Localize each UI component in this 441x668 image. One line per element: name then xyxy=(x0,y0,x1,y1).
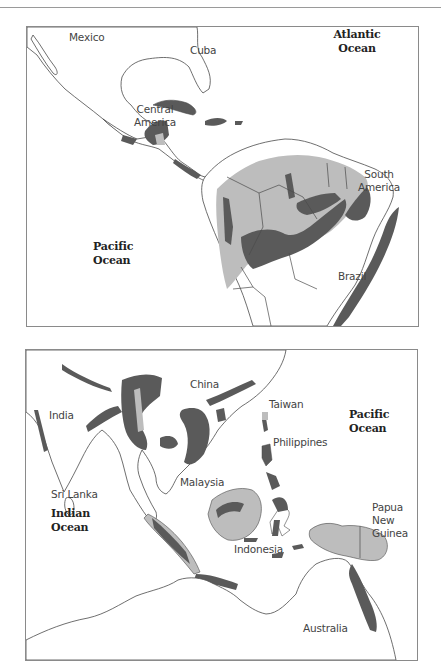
label-philippines: Philippines xyxy=(273,436,327,449)
island-timor xyxy=(292,544,304,550)
label-papua-new-guinea: Papua New Guinea xyxy=(372,501,408,540)
forest-taiwan xyxy=(262,412,268,420)
label-atlantic-ocean: Atlantic Ocean xyxy=(327,28,387,56)
label-indian-line1: Indian xyxy=(51,507,90,521)
label-indian-line2: Ocean xyxy=(51,521,90,535)
label-china: China xyxy=(190,378,219,391)
top-rule xyxy=(0,7,441,8)
hispaniola-island xyxy=(205,118,227,126)
dense-forest-panama xyxy=(173,159,201,179)
taiwan-island xyxy=(262,418,268,432)
label-malaysia: Malaysia xyxy=(180,476,224,489)
label-sri-lanka: Sri Lanka xyxy=(51,488,98,501)
label-pacific-line2: Ocean xyxy=(349,422,389,436)
label-pacific-ocean: Pacific Ocean xyxy=(93,240,133,268)
mindanao-island xyxy=(272,497,288,512)
label-pacific-ocean: Pacific Ocean xyxy=(349,408,389,436)
label-south-line2: America xyxy=(354,181,404,194)
label-indonesia: Indonesia xyxy=(234,543,283,556)
map-asia: China Taiwan India Pacific Ocean Philipp… xyxy=(25,349,418,661)
puerto-rico-island xyxy=(235,121,243,125)
visayas-islands xyxy=(266,472,280,490)
label-central-line2: America xyxy=(125,116,185,129)
label-taiwan: Taiwan xyxy=(269,398,304,411)
label-cuba: Cuba xyxy=(190,44,216,57)
label-png-line3: Guinea xyxy=(372,527,408,540)
asia-map-graphic xyxy=(26,350,417,660)
borneo-island xyxy=(208,488,261,540)
luzon-island xyxy=(262,444,272,466)
dense-forest-sumatra xyxy=(152,518,190,564)
label-south-america: South America xyxy=(354,168,404,194)
label-central-line1: Central xyxy=(125,103,185,116)
label-australia: Australia xyxy=(303,622,348,635)
label-pacific-line1: Pacific xyxy=(349,408,389,422)
label-pacific-line1: Pacific xyxy=(93,240,133,254)
label-png-line1: Papua xyxy=(372,501,408,514)
label-brazil: Brazil xyxy=(338,270,366,283)
label-south-line1: South xyxy=(354,168,404,181)
label-atlantic-line1: Atlantic xyxy=(327,28,387,42)
label-png-line2: New xyxy=(372,514,408,527)
label-mexico: Mexico xyxy=(69,31,104,44)
label-central-america: Central America xyxy=(125,103,185,129)
map-americas: Mexico Cuba Atlantic Ocean Central Ameri… xyxy=(26,26,419,327)
label-indian-ocean: Indian Ocean xyxy=(51,507,90,535)
label-atlantic-line2: Ocean xyxy=(327,42,387,56)
australia-landmass xyxy=(26,558,396,660)
label-pacific-line2: Ocean xyxy=(93,254,133,268)
label-india: India xyxy=(49,409,74,422)
island-flores xyxy=(244,538,258,542)
